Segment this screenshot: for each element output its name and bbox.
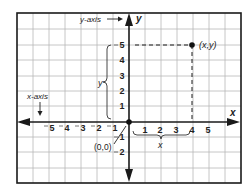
origin-label: (0,0)	[94, 142, 112, 152]
y-tick-3: 3	[119, 71, 124, 81]
y-tick-1: 1	[119, 101, 124, 111]
point-xy-marker	[189, 42, 195, 48]
y-axis-callout-arrow-icon	[107, 17, 123, 22]
y-axis-up-arrow-icon	[125, 13, 133, 26]
x-axis-left-arrow-icon	[17, 118, 30, 126]
x-tick-neg-5: 5	[49, 123, 54, 133]
y-tick-labels-positive: 1 2 3 4 5	[119, 40, 124, 111]
y-brace-label: y	[97, 78, 103, 88]
point-xy-label: (x,y)	[199, 40, 217, 50]
x-tick-4: 4	[189, 125, 194, 135]
origin-marker	[126, 119, 132, 125]
y-axis-name: y	[135, 13, 142, 24]
y-axis	[125, 13, 133, 182]
y-tick-2: 2	[119, 86, 124, 96]
y-brace	[103, 45, 111, 119]
x-axis-name: x	[229, 107, 236, 118]
y-tick-neg-1: 1	[119, 132, 124, 142]
y-axis-down-arrow-icon	[125, 169, 133, 182]
y-tick-5: 5	[119, 40, 124, 50]
x-tick-1: 1	[142, 125, 147, 135]
x-tick-5: 5	[205, 125, 210, 135]
x-axis-right-arrow-icon	[227, 118, 240, 126]
x-tick-labels-positive: 1 2 3 4 5	[142, 125, 210, 135]
x-tick-2: 2	[157, 125, 162, 135]
projection-lines	[135, 45, 192, 122]
y-tick-labels-negative: 1 2	[119, 132, 124, 157]
x-tick-3: 3	[173, 125, 178, 135]
x-tick-neg-1: 1	[112, 123, 117, 133]
x-tick-neg-4: 4	[64, 123, 69, 133]
coordinate-plane: 1 2 3 4 5 5 4 3 2 1 1 2 3 4 5 1 2 y x y-…	[0, 0, 250, 193]
x-axis-callout-label: x-axis	[26, 92, 48, 101]
y-tick-4: 4	[119, 55, 124, 65]
x-tick-neg-3: 3	[80, 123, 85, 133]
x-tick-neg-2: 2	[96, 123, 101, 133]
x-axis-callout-arrow-icon	[38, 102, 43, 116]
y-tick-neg-2: 2	[119, 147, 124, 157]
x-tick-labels-negative: 5 4 3 2 1	[49, 123, 117, 133]
x-brace-label: x	[157, 140, 163, 150]
y-axis-callout-label: y-axis	[79, 15, 101, 24]
